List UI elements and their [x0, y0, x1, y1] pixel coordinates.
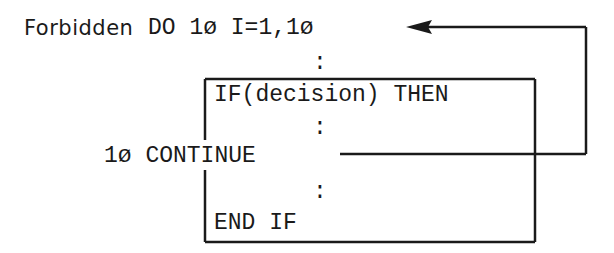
ellipsis-dots: : [313, 52, 327, 75]
endif-statement: END IF [214, 212, 297, 235]
forbidden-label: Forbidden [24, 18, 133, 39]
do-statement: DO 1ø I=1,1ø [148, 17, 314, 40]
if-statement: IF(decision) THEN [214, 84, 449, 107]
ellipsis-dots: : [313, 117, 327, 140]
continue-statement: 1ø CONTINUE [104, 145, 256, 168]
ellipsis-dots: : [313, 181, 327, 204]
